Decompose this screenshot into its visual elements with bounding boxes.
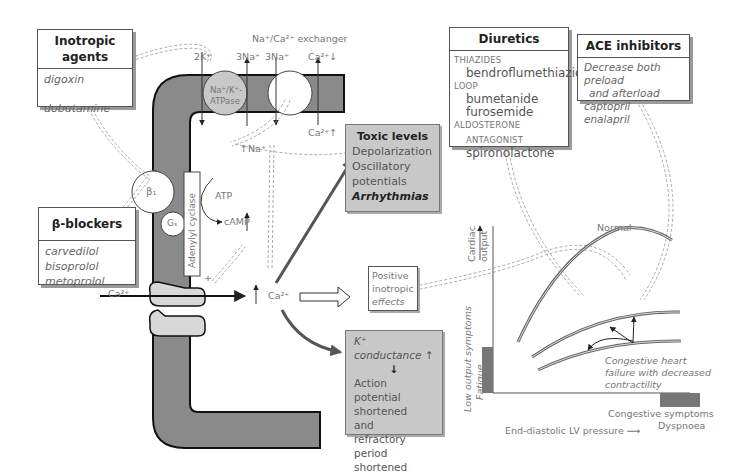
cardiac-label-2: output — [478, 231, 489, 262]
k-title: K⁺ conductance ↑ — [354, 334, 434, 362]
na-ca-exchanger — [268, 71, 312, 115]
beta-blockers-box: β-blockers carvedilol bisoprolol metopro… — [38, 207, 136, 285]
chf-line-1: Congestive heart — [605, 355, 711, 367]
toxic-title: Toxic levels — [352, 129, 433, 144]
drug-captopril: captopril — [584, 100, 683, 113]
drug-bendroflumethiazide: bendroflumethiazide — [454, 67, 564, 80]
drug-metoprolol: metoprolol — [45, 274, 129, 289]
drug-furosemide: furosemide — [454, 106, 564, 119]
toxic-line-2: Oscillatory — [352, 159, 433, 174]
k-conductance-box: K⁺ conductance ↑ ↓ Action potential shor… — [345, 330, 443, 435]
ace-title: ACE inhibitors — [578, 35, 689, 58]
pump-label-2: ATPase — [210, 96, 240, 106]
k-line-2: shortened — [354, 404, 434, 418]
category-aldosterone: ALDOSTERONE — [454, 119, 564, 132]
ion-2k: 2K⁺ — [194, 51, 211, 62]
toxic-line-3: potentials — [352, 174, 433, 189]
ace-inhibitors-box: ACE inhibitors Decrease both preload and… — [577, 34, 690, 101]
positive-line-2: inotropic — [372, 282, 414, 295]
congestive-symptoms-label: Congestive symptoms — [608, 408, 714, 419]
drug-dobutamine: dobutamine — [44, 101, 126, 116]
chf-label: Congestive heart failure with decreased … — [605, 355, 711, 391]
cardiac-label-1: Cardiac — [466, 226, 477, 262]
beta-blockers-title: β-blockers — [39, 208, 135, 241]
inotropic-title: Inotropic agents — [38, 30, 132, 69]
k-down-arrow: ↓ — [354, 362, 434, 376]
k-line-3: and — [354, 418, 434, 432]
inotropic-agents-box: Inotropic agents digoxin dobutamine — [37, 29, 133, 107]
ion-na-in: ↑Na⁺ — [240, 143, 266, 154]
k-line-1: Action potential — [354, 376, 434, 404]
ion-3na-in: 3Na⁺ — [265, 51, 289, 62]
x-axis-label: End-diastolic LV pressure ⟶ — [505, 425, 640, 436]
fatigue-label: Fatigue — [474, 364, 485, 400]
chf-line-3: contractility — [605, 379, 711, 391]
adenylyl-cyclase-label: Adenylyl cyclase — [187, 193, 197, 268]
positive-line-1: Positive — [372, 269, 414, 282]
drug-enalapril: enalapril — [584, 113, 683, 126]
k-line-4: refractory period — [354, 432, 434, 460]
plus-label: + — [204, 272, 212, 283]
ion-ca-out: Ca²⁺↓ — [308, 51, 337, 62]
low-output-label: Low output symptoms — [462, 306, 473, 412]
drug-carvedilol: carvedilol — [45, 244, 129, 259]
drug-spironolactone: spironolactone — [454, 147, 564, 160]
ion-3na-out: 3Na⁺ — [236, 51, 260, 62]
drug-bisoprolol: bisoprolol — [45, 259, 129, 274]
diuretics-box: Diuretics THIAZIDES bendroflumethiazide … — [449, 27, 569, 147]
ace-line-2: and afterload — [584, 87, 683, 100]
ace-line-1: Decrease both preload — [584, 61, 683, 87]
positive-line-3: effects — [372, 295, 414, 308]
ion-ca-in: Ca²⁺↑ — [308, 127, 337, 138]
gs-label: Gₛ — [167, 218, 177, 228]
dyspnoea-label: Dyspnoea — [658, 420, 705, 431]
toxic-line-1: Depolarization — [352, 144, 433, 159]
positive-inotropic-box: Positive inotropic effects — [368, 266, 418, 311]
camp-label: cAMP — [224, 216, 250, 227]
atp-label: ATP — [215, 190, 232, 201]
ca-entry-label: Ca²⁺ — [108, 288, 129, 299]
ca-center-label: Ca²⁺ — [268, 290, 289, 301]
drug-digoxin: digoxin — [44, 72, 126, 87]
toxic-arrhythmias: Arrhythmias — [352, 189, 433, 204]
beta1-label: β₁ — [146, 186, 156, 197]
diuretics-title: Diuretics — [450, 28, 568, 51]
chf-line-2: failure with decreased — [605, 367, 711, 379]
exchanger-label: Na⁺/Ca²⁺ exchanger — [252, 33, 347, 44]
pump-label-1: Na⁺/K⁺- — [210, 85, 240, 95]
k-line-5: shortened — [354, 460, 434, 474]
normal-label: Normal — [597, 222, 631, 233]
toxic-levels-box: Toxic levels Depolarization Oscillatory … — [345, 124, 440, 212]
